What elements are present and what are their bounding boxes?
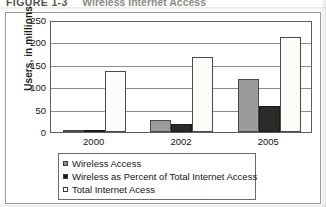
bar-2005-series-0 <box>238 79 259 132</box>
figure-box: Users, in millions 050100150200250 20002… <box>5 12 321 204</box>
plot-inner <box>51 22 311 132</box>
bar-group-2002 <box>138 22 225 132</box>
legend-swatch-icon-0 <box>63 161 68 166</box>
bar-2000-series-2 <box>105 71 126 132</box>
legend-item-2: Total Internet Acess <box>63 183 251 196</box>
y-axis-tick-50: 50 <box>20 106 46 116</box>
bar-2005-series-1 <box>259 106 280 132</box>
y-axis-tick-250: 250 <box>20 16 46 26</box>
x-axis-tick-2002: 2002 <box>151 136 211 147</box>
legend-swatch-icon-1 <box>63 174 68 179</box>
y-axis-tick-0: 0 <box>20 128 46 138</box>
bar-chart: Users, in millions 050100150200250 20002… <box>6 13 322 205</box>
y-axis-tick-100: 100 <box>20 83 46 93</box>
bar-group-2005 <box>226 22 313 132</box>
bar-2002-series-1 <box>171 124 192 132</box>
bar-2002-series-0 <box>150 120 171 132</box>
legend-item-1: Wireless as Percent of Total Internet Ac… <box>63 170 251 183</box>
bar-2005-series-2 <box>280 37 301 132</box>
bar-2002-series-2 <box>192 57 213 132</box>
y-axis-tick-150: 150 <box>20 61 46 71</box>
y-axis-tick-labels: 050100150200250 <box>20 21 46 133</box>
legend-item-0: Wireless Access <box>63 157 251 170</box>
legend-label-1: Wireless as Percent of Total Internet Ac… <box>72 172 257 182</box>
legend-label-0: Wireless Access <box>72 159 141 169</box>
legend-swatch-icon-2 <box>63 187 68 192</box>
bar-group-2000 <box>51 22 138 132</box>
x-axis-tick-2005: 2005 <box>238 136 298 147</box>
bar-2000-series-1 <box>84 130 105 132</box>
x-axis-tick-labels: 200020022005 <box>50 136 312 150</box>
scanned-page: FIGURE 1-3 Wireless Internet Access User… <box>0 0 326 207</box>
bar-2000-series-0 <box>63 130 84 132</box>
x-axis-tick-2000: 2000 <box>64 136 124 147</box>
y-axis-tick-200: 200 <box>20 39 46 49</box>
scan-band <box>0 7 326 10</box>
chart-legend: Wireless AccessWireless as Percent of To… <box>58 153 256 200</box>
plot-area <box>50 21 312 133</box>
legend-label-2: Total Internet Acess <box>72 185 155 195</box>
